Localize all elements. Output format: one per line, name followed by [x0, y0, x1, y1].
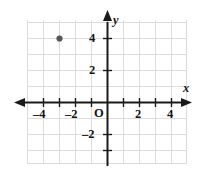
x-axis-label: x [183, 82, 189, 95]
y-tick-label-neg2: –2 [82, 128, 95, 141]
x-axis-arrow-left [14, 98, 25, 107]
data-point-marker [56, 35, 62, 41]
x-tick-label-neg2: –2 [65, 108, 78, 121]
data-points [56, 35, 62, 41]
y-tick-label-2: 2 [89, 64, 95, 77]
origin-label: O [94, 107, 104, 120]
y-axis [103, 10, 112, 166]
x-tick-label-2: 2 [135, 108, 141, 121]
coordinate-plane-figure: –4 –2 2 4 4 2 –2 O y x [0, 0, 203, 173]
y-axis-arrow-up [103, 10, 112, 21]
x-tick-label-neg4: –4 [33, 108, 46, 121]
y-tick-label-4: 4 [89, 32, 95, 45]
y-axis-label: y [113, 14, 119, 27]
x-tick-label-4: 4 [167, 108, 173, 121]
coordinate-plane-canvas [0, 0, 203, 173]
